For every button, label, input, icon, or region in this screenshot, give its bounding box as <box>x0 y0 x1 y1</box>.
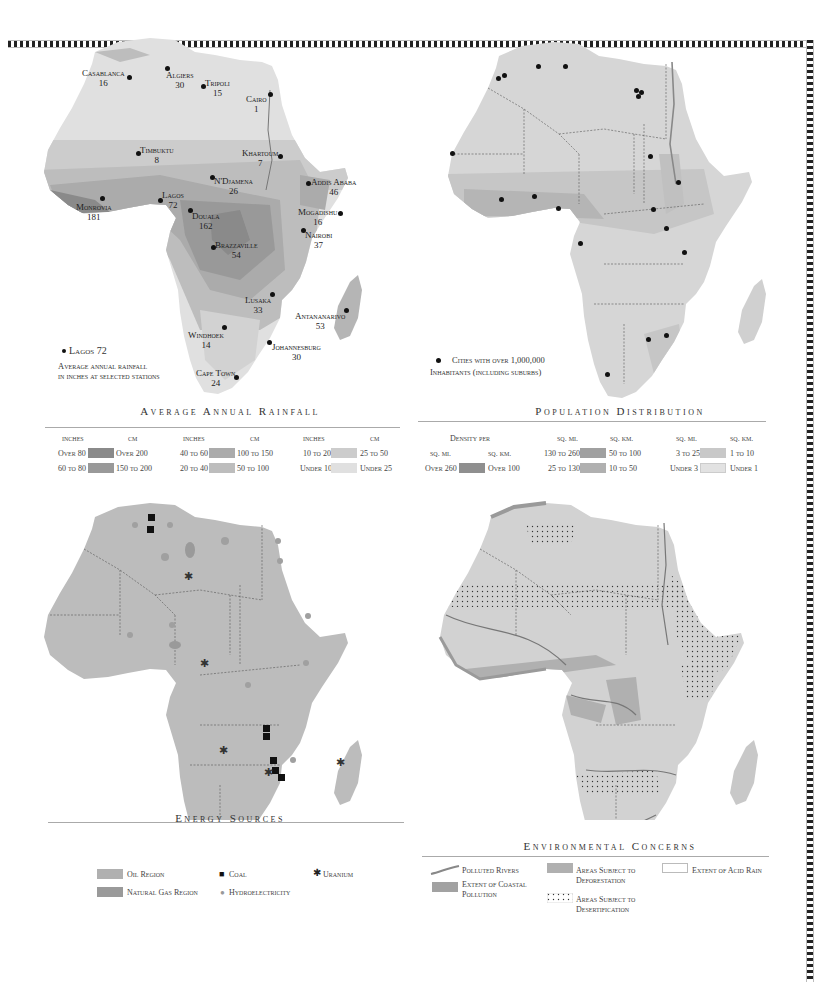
legend-swatch-over260 <box>459 463 485 473</box>
legend-label: 10 to 20 <box>303 449 331 459</box>
city-dot <box>646 337 651 342</box>
legend-label: 50 to 100 <box>237 464 269 474</box>
city-label-mogadishu: Mogadishu16 <box>298 207 337 227</box>
city-label-johannesburg: Johannesburg30 <box>272 342 321 362</box>
city-dot <box>605 372 610 377</box>
population-note-line1: Cities with over 1,000,000 <box>452 355 545 366</box>
legend-deforest-line2: Deforestation <box>576 876 625 886</box>
legend-acid-label: Extent of Acid Rain <box>692 866 762 876</box>
legend-deforest-line1: Areas Subject to <box>576 866 635 876</box>
environment-divider <box>422 856 769 857</box>
legend-swatch-gas <box>97 887 123 897</box>
legend-swatch-3-25 <box>700 448 726 458</box>
city-dot <box>651 207 656 212</box>
legend-label: 10 to 50 <box>609 464 637 474</box>
energy-map <box>0 480 410 820</box>
legend-swatch-60-80 <box>88 463 114 473</box>
city-dot <box>578 241 583 246</box>
legend-oil-label: Oil Region <box>127 870 164 880</box>
city-label-khartoum: Khartoum7 <box>242 148 278 168</box>
city-dot <box>682 250 687 255</box>
environment-panel: Environmental Concerns Polluted Rivers E… <box>410 480 810 920</box>
legend-label: Under 10 <box>300 464 332 474</box>
legend-label: 3 to 25 <box>676 449 700 459</box>
city-dot <box>676 180 681 185</box>
legend-label: 150 to 200 <box>116 464 152 474</box>
legend-gas-label: Natural Gas Region <box>127 888 198 898</box>
city-label-douala: Douala162 <box>192 211 220 231</box>
legend-swatch-acid-rain <box>662 863 688 873</box>
city-dot <box>100 196 105 201</box>
legend-swatch-under3 <box>700 463 726 473</box>
city-dot <box>278 154 283 159</box>
legend-label: Over 200 <box>116 449 148 459</box>
city-label-timbuktu: Timbuktu8 <box>140 145 174 165</box>
city-dot <box>268 92 273 97</box>
legend-label: 25 to 50 <box>360 449 388 459</box>
legend-label: Over 80 <box>58 449 86 459</box>
city-dot <box>502 73 507 78</box>
legend-label: 40 to 60 <box>180 449 208 459</box>
uranium-legend-icon: ✱ <box>313 868 321 878</box>
uranium-marker-icon: ✱ <box>336 757 345 768</box>
legend-swatch-130-260 <box>580 448 606 458</box>
legend-swatch-coastal <box>432 882 458 892</box>
coal-marker-icon <box>263 733 270 740</box>
legend-header-inches: inches <box>303 434 325 444</box>
city-dot <box>536 64 541 69</box>
legend-header-inches: inches <box>183 434 205 444</box>
legend-header-cm: cm <box>128 434 137 444</box>
environment-title: Environmental Concerns <box>480 840 740 852</box>
legend-label: 25 to 130 <box>548 464 580 474</box>
city-label-nairobi: Nairobi37 <box>305 230 332 250</box>
population-panel: Cities with over 1,000,000 Inhabitants (… <box>410 0 810 480</box>
city-label-tripoli: Tripoli15 <box>205 78 230 98</box>
city-dot <box>127 75 132 80</box>
legend-label: Under 1 <box>730 464 758 474</box>
legend-label: 20 to 40 <box>180 464 208 474</box>
legend-swatch-desertification <box>547 893 573 903</box>
city-label-brazzaville: Brazzaville54 <box>215 240 258 260</box>
city-label-antananarivo: Antananarivo53 <box>295 311 345 331</box>
legend-swatch-10-20 <box>331 448 357 458</box>
legend-label: 1 to 10 <box>730 449 754 459</box>
city-label-algiers: Algiers30 <box>166 70 194 90</box>
coal-marker-icon <box>147 526 154 533</box>
rainfall-title: Average Annual Rainfall <box>100 405 360 417</box>
population-divider <box>418 421 766 422</box>
rainfall-note-example: Lagos 72 <box>69 345 107 356</box>
city-dot <box>563 64 568 69</box>
city-dot <box>664 333 669 338</box>
legend-coal-label: Coal <box>229 870 247 880</box>
uranium-marker-icon: ✱ <box>264 767 273 778</box>
legend-desert-line1: Areas Subject to <box>576 895 635 905</box>
legend-swatch-40-60 <box>209 448 235 458</box>
legend-header-sqkm: sq. km. <box>488 449 511 459</box>
legend-swatch-over80 <box>88 448 114 458</box>
city-label-ndjamena: N'Djamena26 <box>214 176 253 196</box>
city-label-lagos: Lagos72 <box>162 190 184 210</box>
legend-swatch-deforestation <box>547 863 573 873</box>
legend-header-cm: cm <box>370 434 379 444</box>
rainfall-note-line2: in inches at selected stations <box>58 371 160 382</box>
population-note-line2: Inhabitants (including suburbs) <box>430 367 541 378</box>
legend-header-sqmi: sq. mi. <box>557 434 578 444</box>
legend-header-sqkm: sq. km. <box>730 434 753 444</box>
city-label-cairo: Cairo1 <box>246 94 267 114</box>
legend-label: 100 to 150 <box>237 449 273 459</box>
legend-swatch-20-40 <box>209 463 235 473</box>
hydro-legend-icon: ● <box>220 888 225 898</box>
polluted-river-legend-icon <box>430 864 460 876</box>
legend-header-sqkm: sq. km. <box>610 434 633 444</box>
city-label-monrovia: Monrovia181 <box>76 202 112 222</box>
legend-coastal-line1: Extent of Coastal <box>462 880 527 890</box>
city-dot <box>556 206 561 211</box>
city-dot <box>664 226 669 231</box>
environment-map <box>410 480 810 820</box>
uranium-marker-icon: ✱ <box>200 658 209 669</box>
legend-uranium-label: Uranium <box>323 870 353 880</box>
coal-marker-icon <box>263 725 270 732</box>
legend-header-sqmi: sq. mi. <box>430 449 451 459</box>
city-dot <box>338 211 343 216</box>
uranium-marker-icon: ✱ <box>219 745 228 756</box>
